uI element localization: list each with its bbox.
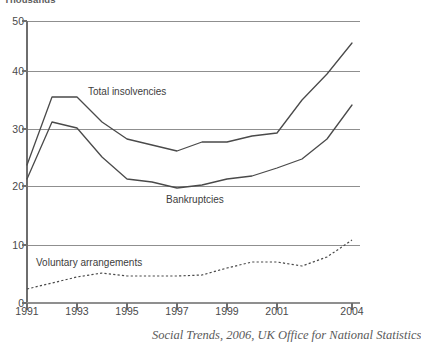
x-axis-tick-labels: 1991 1993 1995 1997 1999 2001 2004 — [0, 305, 364, 323]
x-tick-1995: 1995 — [115, 305, 138, 317]
series-label-voluntary-arrangements: Voluntary arrangements — [36, 257, 142, 268]
series-label-total-insolvencies: Total insolvencies — [88, 86, 166, 97]
x-tick-1997: 1997 — [165, 305, 188, 317]
plot-area — [0, 0, 364, 318]
x-tick-2004: 2004 — [340, 305, 363, 317]
x-tick-1993: 1993 — [65, 305, 88, 317]
x-tick-1999: 1999 — [215, 305, 238, 317]
gridlines — [27, 21, 360, 245]
y-axis-ticks — [22, 21, 27, 303]
source-caption: Social Trends, 2006, UK Office for Natio… — [152, 328, 421, 343]
series-line-total-insolvencies — [27, 43, 352, 165]
x-tick-2001: 2001 — [265, 305, 288, 317]
series-label-bankruptcies: Bankruptcies — [166, 194, 224, 205]
x-tick-1991: 1991 — [15, 305, 38, 317]
